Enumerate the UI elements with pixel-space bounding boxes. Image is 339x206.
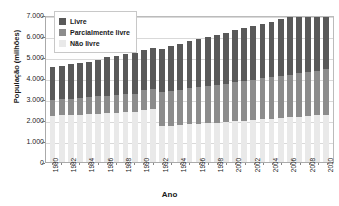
- x-tick-slot: 2006: [286, 164, 295, 190]
- bar-segment-livre: [77, 63, 83, 98]
- bar-segment-nao-livre: [223, 122, 229, 162]
- x-tick-slot: [56, 164, 65, 190]
- bar-segment-livre: [159, 49, 165, 93]
- x-tick-label: 2010: [327, 158, 334, 172]
- x-tick-slot: [258, 164, 267, 190]
- bar-segment-nao-livre: [296, 117, 302, 162]
- bar-segment-parcialmente-livre: [168, 91, 174, 126]
- bar-column: [176, 17, 185, 162]
- legend-swatch-icon: [59, 29, 66, 36]
- bar-segment-nao-livre: [314, 115, 320, 162]
- x-tick-slot: 1992: [157, 164, 166, 190]
- bar-segment-livre: [114, 56, 120, 95]
- stacked-bar: [141, 50, 147, 162]
- bar-segment-nao-livre: [187, 124, 193, 162]
- bar-segment-livre: [323, 17, 329, 69]
- bar-segment-parcialmente-livre: [159, 92, 165, 126]
- stacked-bar: [196, 39, 202, 162]
- y-tick-label: 0: [8, 159, 44, 166]
- x-tick-slot: 1980: [47, 164, 56, 190]
- bar-segment-livre: [177, 44, 183, 90]
- bar-segment-parcialmente-livre: [104, 96, 110, 113]
- x-tick-slot: 2008: [304, 164, 313, 190]
- x-tick-mark: [300, 163, 301, 165]
- bar-segment-livre: [260, 24, 266, 79]
- stacked-bar: [205, 37, 211, 162]
- bar-column: [185, 17, 194, 162]
- bar-segment-nao-livre: [150, 109, 156, 162]
- bar-segment-parcialmente-livre: [150, 89, 156, 109]
- x-tick-mark: [318, 163, 319, 165]
- bar-segment-livre: [296, 16, 302, 73]
- stacked-bar: [241, 28, 247, 162]
- x-axis-tick-labels: 1980198219841986198819901992199419961998…: [45, 164, 334, 190]
- x-tick-slot: 1986: [102, 164, 111, 190]
- bar-segment-parcialmente-livre: [132, 94, 138, 112]
- bar-segment-parcialmente-livre: [50, 100, 56, 116]
- stacked-bar: [59, 66, 65, 162]
- bar-segment-nao-livre: [114, 113, 120, 162]
- x-tick-slot: [75, 164, 84, 190]
- x-tick-slot: 2002: [249, 164, 258, 190]
- legend-label: Parcialmente livre: [70, 28, 130, 37]
- bar-segment-livre: [250, 26, 256, 80]
- bar-column: [194, 17, 203, 162]
- bar-segment-livre: [86, 62, 92, 97]
- bar-segment-nao-livre: [59, 115, 65, 162]
- x-tick-mark: [153, 163, 154, 165]
- bar-segment-parcialmente-livre: [205, 86, 211, 123]
- x-tick-slot: 1996: [194, 164, 203, 190]
- stacked-bar: [95, 60, 101, 162]
- x-tick-slot: 1984: [84, 164, 93, 190]
- bar-segment-nao-livre: [250, 120, 256, 162]
- bar-segment-parcialmente-livre: [260, 78, 266, 119]
- bar-segment-parcialmente-livre: [123, 94, 129, 112]
- stacked-bar: [278, 19, 284, 162]
- bar-segment-parcialmente-livre: [77, 98, 83, 115]
- chart-legend: LivreParcialmente livreNão livre: [54, 11, 137, 53]
- x-tick-mark: [98, 163, 99, 165]
- bar-segment-parcialmente-livre: [305, 72, 311, 116]
- x-tick-slot: [130, 164, 139, 190]
- bar-segment-nao-livre: [260, 119, 266, 162]
- bar-segment-nao-livre: [232, 121, 238, 162]
- x-tick-slot: [93, 164, 102, 190]
- bar-segment-parcialmente-livre: [296, 73, 302, 116]
- bar-segment-livre: [168, 46, 174, 91]
- y-tick-label: 5.000: [8, 54, 44, 61]
- bar-segment-nao-livre: [50, 116, 56, 162]
- stacked-bar: [86, 62, 92, 162]
- x-tick-mark: [245, 163, 246, 165]
- legend-item: Não livre: [59, 38, 130, 48]
- bar-segment-parcialmente-livre: [68, 99, 74, 115]
- x-tick-slot: [240, 164, 249, 190]
- bar-segment-nao-livre: [123, 112, 129, 162]
- bar-segment-livre: [187, 41, 193, 88]
- bar-segment-nao-livre: [177, 125, 183, 162]
- legend-label: Não livre: [70, 39, 100, 48]
- bar-column: [148, 17, 157, 162]
- y-axis-title: População (milhões): [12, 7, 21, 127]
- bar-segment-nao-livre: [95, 114, 101, 163]
- bar-segment-parcialmente-livre: [278, 76, 284, 118]
- bar-segment-nao-livre: [323, 115, 329, 162]
- legend-swatch-icon: [59, 40, 66, 47]
- bar-segment-parcialmente-livre: [314, 71, 320, 116]
- bar-segment-nao-livre: [214, 123, 220, 162]
- bar-segment-livre: [223, 33, 229, 84]
- bar-segment-parcialmente-livre: [177, 90, 183, 125]
- bar-segment-nao-livre: [104, 113, 110, 162]
- bar-segment-parcialmente-livre: [287, 75, 293, 118]
- x-tick-slot: [166, 164, 175, 190]
- stacked-bar: [314, 16, 320, 162]
- x-tick-slot: [148, 164, 157, 190]
- bar-segment-livre: [314, 16, 320, 71]
- bar-segment-parcialmente-livre: [114, 95, 120, 113]
- stacked-bar: [214, 35, 220, 162]
- bar-segment-nao-livre: [159, 126, 165, 162]
- stacked-bar: [50, 67, 56, 162]
- x-tick-mark: [79, 163, 80, 165]
- bar-segment-nao-livre: [241, 121, 247, 162]
- bar-segment-livre: [95, 60, 101, 97]
- x-tick-mark: [189, 163, 190, 165]
